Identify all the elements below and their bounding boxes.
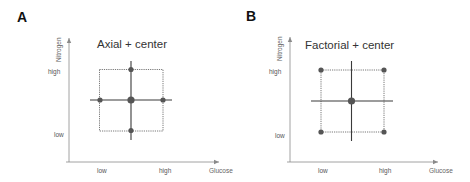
y-tick-low: low bbox=[275, 132, 285, 139]
design-point-axial-left bbox=[97, 97, 102, 102]
y-axis-label: Nitrogen bbox=[55, 37, 63, 62]
y-tick-high: high bbox=[48, 68, 61, 76]
y-axis-label: Nitrogen bbox=[276, 36, 284, 61]
x-axis-label: Glucose bbox=[429, 167, 453, 174]
panel-b: B Factorial + center Nitrogen Glucose hi… bbox=[246, 8, 453, 175]
x-tick-high: high bbox=[379, 167, 392, 175]
panel-a: A Axial + center Nitrogen Glucose high l… bbox=[17, 9, 233, 175]
panel-title: Factorial + center bbox=[305, 39, 394, 51]
design-point-factorial-bottom-right bbox=[381, 129, 386, 134]
y-tick-low: low bbox=[54, 131, 64, 138]
x-tick-low: low bbox=[97, 167, 107, 174]
design-point-axial-top bbox=[128, 67, 133, 72]
design-point-factorial-top-right bbox=[381, 67, 386, 72]
panel-title: Axial + center bbox=[97, 38, 167, 50]
design-point-center bbox=[348, 97, 355, 104]
x-tick-high: high bbox=[159, 167, 172, 175]
panel-letter: A bbox=[17, 9, 27, 25]
y-tick-high: high bbox=[269, 68, 282, 76]
design-point-factorial-top-left bbox=[318, 67, 323, 72]
design-point-center bbox=[127, 96, 134, 103]
design-point-factorial-bottom-left bbox=[318, 129, 323, 134]
x-tick-low: low bbox=[318, 167, 328, 174]
panel-letter: B bbox=[246, 8, 256, 24]
design-point-axial-right bbox=[160, 97, 165, 102]
design-point-axial-bottom bbox=[128, 128, 133, 133]
design-diagram: A Axial + center Nitrogen Glucose high l… bbox=[0, 0, 470, 182]
x-axis-label: Glucose bbox=[209, 167, 233, 174]
